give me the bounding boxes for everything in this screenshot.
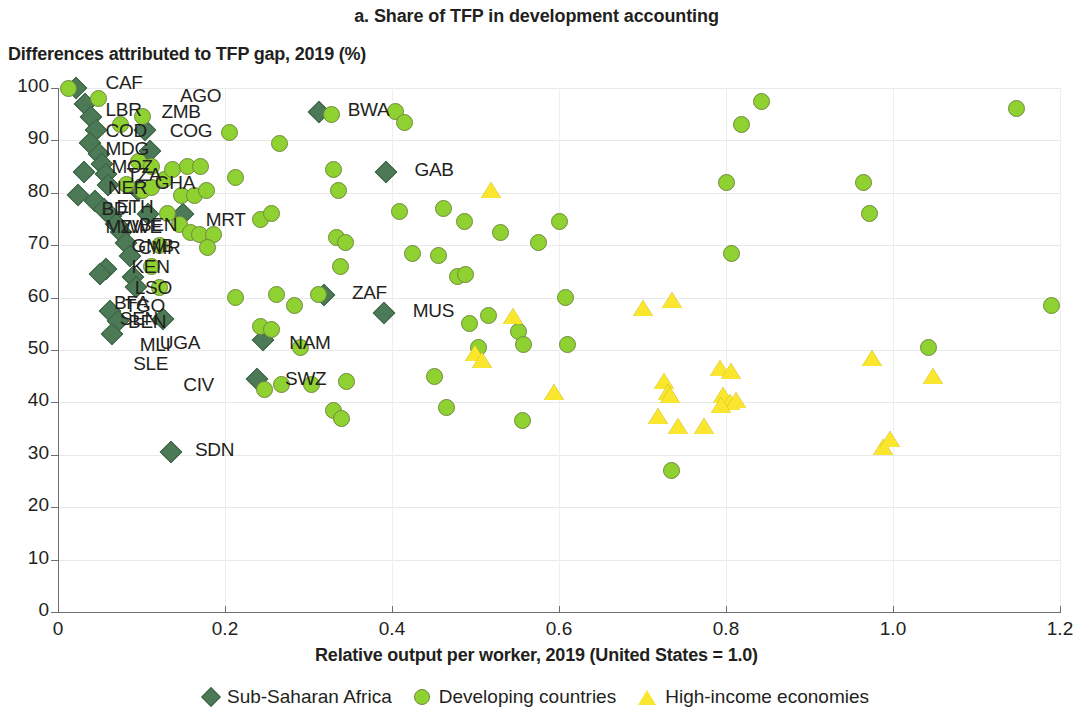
chart-figure: a. Share of TFP in development accountin… — [0, 0, 1073, 714]
x-axis-title: Relative output per worker, 2019 (United… — [0, 645, 1073, 666]
data-point-triangle — [472, 352, 492, 368]
data-point-label: LBR — [106, 99, 142, 121]
data-point-circle — [718, 174, 735, 191]
data-point-triangle — [721, 363, 741, 379]
data-point-circle — [461, 315, 478, 332]
data-point-circle — [514, 412, 531, 429]
legend-entry[interactable]: High-income economies — [638, 686, 869, 708]
data-point-label: CAF — [106, 72, 143, 94]
y-axis-tick-label: 10 — [28, 547, 49, 569]
y-axis-title: Differences attributed to TFP gap, 2019 … — [8, 44, 366, 65]
data-point-circle — [480, 307, 497, 324]
gridline-vertical — [225, 88, 226, 612]
x-axis-tick-label: 1.2 — [1047, 618, 1073, 640]
data-point-triangle — [662, 292, 682, 308]
x-axis-tick-label: 1.0 — [880, 618, 906, 640]
gridline-vertical — [559, 88, 560, 612]
data-point-circle — [396, 114, 413, 131]
data-point-label: SLE — [133, 353, 168, 375]
data-point-circle — [199, 239, 216, 256]
data-point-label: SDN — [195, 439, 234, 461]
data-point-label: ZAF — [352, 282, 387, 304]
legend-entry[interactable]: Sub-Saharan Africa — [204, 686, 392, 708]
data-point-circle — [861, 205, 878, 222]
x-axis-tick-label: 0.8 — [713, 618, 739, 640]
data-point-circle — [663, 462, 680, 479]
data-point-label: CIV — [183, 374, 214, 396]
data-point-triangle — [481, 182, 501, 198]
legend-entry[interactable]: Developing countries — [414, 686, 616, 708]
data-point-label: BEN — [128, 311, 166, 333]
data-point-circle — [221, 124, 238, 141]
data-point-circle — [1043, 297, 1060, 314]
data-point-label: KEN — [131, 256, 169, 278]
data-point-triangle — [862, 350, 882, 366]
x-axis-tick — [225, 606, 226, 613]
data-point-circle — [456, 213, 473, 230]
legend-circle-icon — [414, 689, 430, 705]
y-axis-tick-label: 100 — [17, 75, 49, 97]
y-axis-tick-label: 60 — [28, 285, 49, 307]
data-point-circle — [337, 234, 354, 251]
data-point-circle — [268, 286, 285, 303]
y-axis-line — [58, 88, 59, 612]
data-point-label: GHA — [155, 172, 195, 194]
data-point-circle — [457, 266, 474, 283]
data-point-circle — [404, 245, 421, 262]
data-point-circle — [227, 289, 244, 306]
data-point-triangle — [633, 300, 653, 316]
legend-triangle-icon — [638, 690, 656, 705]
data-point-diamond — [159, 441, 182, 464]
x-axis-tick — [726, 606, 727, 613]
data-point-label: NAM — [289, 332, 330, 354]
data-point-circle — [271, 135, 288, 152]
x-axis-tick — [1060, 606, 1061, 613]
data-point-circle — [227, 169, 244, 186]
x-axis-tick-label: 0.6 — [546, 618, 572, 640]
data-point-circle — [338, 373, 355, 390]
data-point-circle — [920, 339, 937, 356]
data-point-circle — [263, 321, 280, 338]
y-axis-tick — [51, 507, 58, 508]
x-axis-tick — [392, 606, 393, 613]
data-point-circle — [333, 410, 350, 427]
data-point-label: MRT — [206, 209, 246, 231]
y-axis-tick — [51, 245, 58, 246]
data-point-circle — [435, 200, 452, 217]
y-axis-tick-label: 70 — [28, 232, 49, 254]
chart-legend: Sub-Saharan AfricaDeveloping countriesHi… — [0, 686, 1073, 708]
data-point-label: BEN — [139, 214, 177, 236]
data-point-triangle — [668, 418, 688, 434]
x-axis-tick — [559, 606, 560, 613]
data-point-circle — [263, 205, 280, 222]
data-point-circle — [557, 289, 574, 306]
data-point-triangle — [694, 418, 714, 434]
y-axis-tick-label: 20 — [28, 494, 49, 516]
y-axis-tick — [51, 402, 58, 403]
y-axis-tick-label: 40 — [28, 389, 49, 411]
data-point-circle — [723, 245, 740, 262]
data-point-label: MUS — [413, 300, 454, 322]
data-point-circle — [430, 247, 447, 264]
y-axis-tick — [51, 455, 58, 456]
data-point-triangle — [711, 397, 731, 413]
data-point-circle — [559, 336, 576, 353]
data-point-circle — [492, 224, 509, 241]
data-point-diamond — [375, 161, 398, 184]
y-axis-tick-label: 80 — [28, 180, 49, 202]
data-point-triangle — [544, 384, 564, 400]
gridline-vertical — [726, 88, 727, 612]
data-point-circle — [426, 368, 443, 385]
y-axis-tick — [51, 298, 58, 299]
data-point-circle — [330, 182, 347, 199]
data-point-circle — [855, 174, 872, 191]
legend-label: Developing countries — [439, 686, 616, 708]
data-point-circle — [551, 213, 568, 230]
y-axis-tick — [51, 612, 58, 613]
y-axis-tick-label: 90 — [28, 127, 49, 149]
data-point-circle — [733, 116, 750, 133]
y-axis-tick — [51, 140, 58, 141]
y-axis-tick-label: 50 — [28, 337, 49, 359]
y-axis-tick-label: 30 — [28, 442, 49, 464]
x-axis-tick-label: 0.2 — [212, 618, 238, 640]
